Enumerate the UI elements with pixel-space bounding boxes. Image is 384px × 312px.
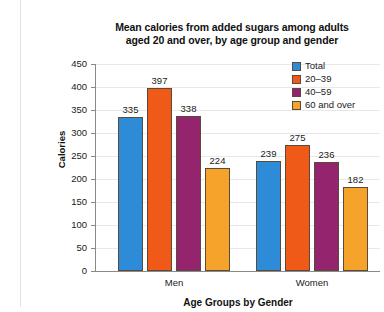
legend-label: 60 and over — [305, 100, 355, 110]
chart-title: Mean calories from added sugars among ad… — [82, 21, 382, 46]
x-axis-group-label: Men — [134, 277, 214, 288]
y-axis-tick — [91, 87, 96, 88]
legend-label: 40–59 — [305, 87, 331, 97]
bar-chart: Mean calories from added sugars among ad… — [40, 16, 384, 312]
legend-item: 60 and over — [292, 99, 384, 112]
y-axis-tick — [91, 64, 96, 65]
bar-value-label: 397 — [140, 76, 180, 86]
y-axis-tick-label: 50 — [47, 243, 87, 253]
bar-value-label: 182 — [336, 175, 376, 185]
y-axis-tick — [91, 179, 96, 180]
legend-label: Total — [305, 61, 325, 71]
bar-value-label: 239 — [249, 149, 289, 159]
bar — [147, 88, 172, 271]
legend-item: 20–39 — [292, 73, 384, 86]
bar — [256, 161, 281, 271]
y-axis-tick — [91, 156, 96, 157]
legend-swatch — [292, 75, 301, 84]
bar-value-label: 338 — [169, 104, 209, 114]
bar — [205, 168, 230, 271]
bar-value-label: 224 — [198, 156, 238, 166]
legend-item: 40–59 — [292, 86, 384, 99]
page-edge-line — [20, 0, 21, 307]
bar — [176, 116, 201, 271]
y-axis-tick-label: 300 — [47, 128, 87, 138]
bar — [118, 117, 143, 271]
legend-label: 20–39 — [305, 74, 331, 84]
y-axis-tick-label: 150 — [47, 197, 87, 207]
y-axis-tick-label: 250 — [47, 151, 87, 161]
bar-value-label: 335 — [111, 105, 151, 115]
legend-swatch — [292, 62, 301, 71]
legend-swatch — [292, 88, 301, 97]
legend-item: Total — [292, 60, 384, 73]
bar-value-label: 236 — [307, 150, 347, 160]
y-axis-tick — [91, 110, 96, 111]
bar — [285, 145, 310, 272]
y-axis-tick — [91, 271, 96, 272]
y-axis-tick-label: 400 — [47, 82, 87, 92]
y-axis-tick-label: 200 — [47, 174, 87, 184]
y-axis-tick-label: 350 — [47, 105, 87, 115]
bar — [343, 187, 368, 271]
chart-legend: Total20–3940–5960 and over — [292, 60, 384, 112]
y-axis-tick — [91, 133, 96, 134]
legend-swatch — [292, 101, 301, 110]
y-axis-tick-label: 100 — [47, 220, 87, 230]
x-axis-title: Age Groups by Gender — [96, 297, 380, 308]
y-axis-tick — [91, 248, 96, 249]
x-axis-group-label: Women — [272, 277, 352, 288]
chart-title-line-1: Mean calories from added sugars among ad… — [82, 21, 382, 34]
chart-title-line-2: aged 20 and over, by age group and gende… — [82, 34, 382, 47]
y-axis-tick — [91, 202, 96, 203]
y-axis-tick-label: 450 — [47, 59, 87, 69]
y-axis-tick — [91, 225, 96, 226]
bar-value-label: 275 — [278, 133, 318, 143]
gridline — [96, 271, 380, 272]
y-axis-tick-label: 0 — [47, 266, 87, 276]
